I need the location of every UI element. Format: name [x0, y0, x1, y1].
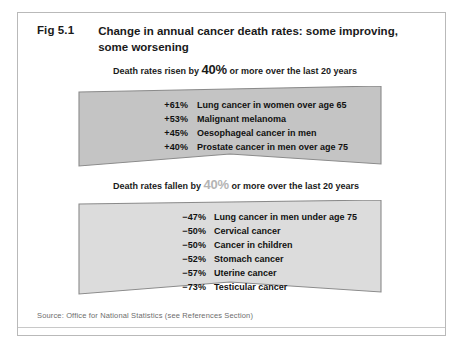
table-row: −57% Uterine cancer [174, 266, 460, 280]
table-row: +53% Malignant melanoma [154, 112, 460, 126]
row-label: Cervical cancer [214, 224, 460, 238]
row-label: Lung cancer in women over age 65 [197, 98, 460, 112]
footer-divider [18, 327, 445, 328]
row-label: Cancer in children [214, 238, 460, 252]
source-note: Source: Office for National Statistics (… [37, 311, 253, 320]
figure-number: Fig 5.1 [37, 24, 74, 36]
caption-fallen-percent: 40% [204, 177, 229, 192]
caption-fallen-prefix: Death rates fallen by [113, 181, 204, 191]
table-row: −73% Testicular cancer [174, 280, 460, 294]
row-label: Prostate cancer in men over age 75 [197, 140, 460, 154]
figure-page: Fig 5.1 Change in annual cancer death ra… [0, 0, 460, 348]
row-percent: −57% [174, 266, 206, 280]
row-label: Uterine cancer [214, 266, 460, 280]
banner-fallen-rows: −47% Lung cancer in men under age 75 −50… [75, 200, 460, 294]
caption-rates-fallen: Death rates fallen by 40% or more over t… [113, 177, 359, 192]
row-percent: +40% [154, 140, 188, 154]
row-percent: −73% [174, 280, 206, 294]
table-row: −47% Lung cancer in men under age 75 [174, 210, 460, 224]
banner-risen-rows: +61% Lung cancer in women over age 65 +5… [75, 86, 460, 154]
table-row: −50% Cancer in children [174, 238, 460, 252]
row-percent: −50% [174, 224, 206, 238]
row-label: Testicular cancer [214, 280, 460, 294]
banner-rates-fallen: −47% Lung cancer in men under age 75 −50… [75, 200, 385, 300]
caption-fallen-suffix: or more over the last 20 years [229, 181, 359, 191]
table-row: +40% Prostate cancer in men over age 75 [154, 140, 460, 154]
row-percent: +61% [154, 98, 188, 112]
figure-title-row: Fig 5.1 Change in annual cancer death ra… [37, 24, 429, 55]
page-title: Change in annual cancer death rates: som… [98, 24, 429, 55]
row-percent: −52% [174, 252, 206, 266]
banner-rates-risen: +61% Lung cancer in women over age 65 +5… [75, 86, 385, 172]
row-label: Oesophageal cancer in men [197, 126, 460, 140]
table-row: +45% Oesophageal cancer in men [154, 126, 460, 140]
caption-risen-prefix: Death rates risen by [113, 66, 202, 76]
table-row: +61% Lung cancer in women over age 65 [154, 98, 460, 112]
row-percent: −47% [174, 210, 206, 224]
row-label: Lung cancer in men under age 75 [214, 210, 460, 224]
row-label: Stomach cancer [214, 252, 460, 266]
row-percent: −50% [174, 238, 206, 252]
row-label: Malignant melanoma [197, 112, 460, 126]
caption-risen-percent: 40% [202, 62, 227, 77]
row-percent: +45% [154, 126, 188, 140]
caption-rates-risen: Death rates risen by 40% or more over th… [113, 62, 357, 77]
row-percent: +53% [154, 112, 188, 126]
table-row: −52% Stomach cancer [174, 252, 460, 266]
caption-risen-suffix: or more over the last 20 years [227, 66, 357, 76]
table-row: −50% Cervical cancer [174, 224, 460, 238]
